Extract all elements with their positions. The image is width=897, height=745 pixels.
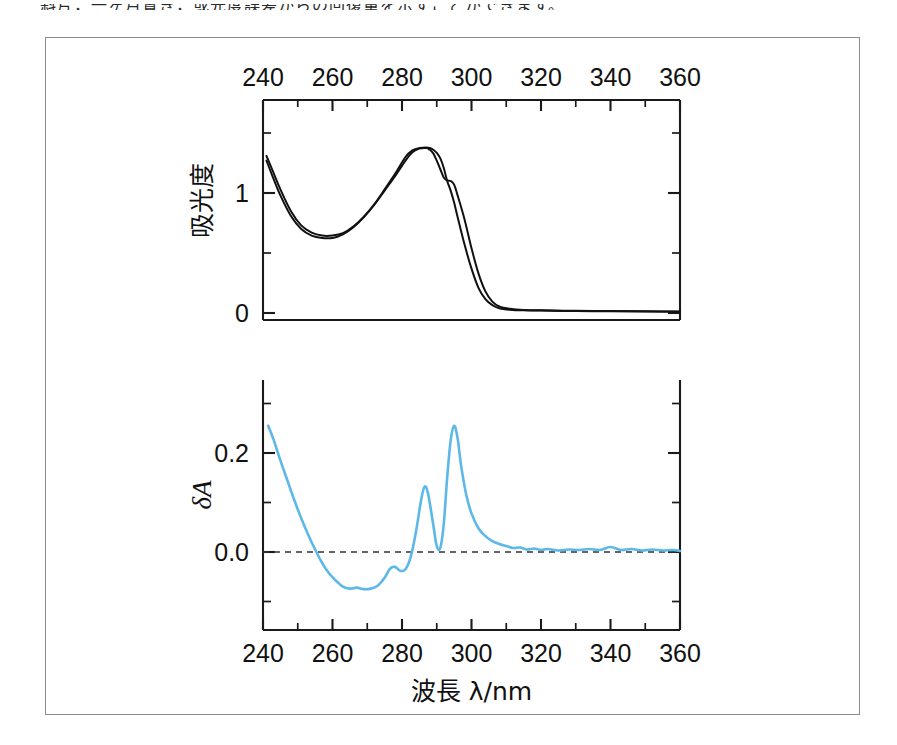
absorbance-chart: 24026028030032034036001吸光度 — [188, 63, 701, 327]
top-chart-xtick-label: 340 — [590, 63, 632, 91]
bottom-chart-ytick-label: 0.0 — [214, 538, 249, 566]
top-chart-xtick-label: 300 — [451, 63, 493, 91]
spectrum-curve-2 — [266, 147, 680, 311]
bottom-chart-xtick-label: 240 — [242, 639, 284, 667]
spectrum-curve-1 — [266, 148, 680, 312]
top-chart-xtick-label: 360 — [659, 63, 701, 91]
top-chart-ytick-label: 1 — [235, 179, 249, 207]
bottom-chart-xtick-label: 320 — [520, 639, 562, 667]
bottom-chart-x-axis-title: 波長 λ/nm — [411, 677, 532, 706]
bottom-chart-xtick-label: 300 — [451, 639, 493, 667]
top-chart-xtick-label: 280 — [381, 63, 423, 91]
bottom-chart-ytick-label: 0.2 — [214, 439, 249, 467]
top-chart-xtick-label: 320 — [520, 63, 562, 91]
bottom-chart-xtick-label: 280 — [381, 639, 423, 667]
figure-plot-area: 24026028030032034036001吸光度 2402602803003… — [0, 0, 897, 745]
delta-A-curve — [268, 426, 680, 589]
bottom-chart-y-axis-title: δA — [187, 480, 217, 510]
bottom-chart-xtick-label: 340 — [590, 639, 632, 667]
top-chart-y-axis-title: 吸光度 — [188, 163, 217, 238]
difference-chart: 2402602803003203403600.00.2δA波長 λ/nm — [187, 380, 701, 706]
top-chart-xtick-label: 260 — [312, 63, 354, 91]
top-chart-ytick-label: 0 — [235, 299, 249, 327]
top-chart-xtick-label: 240 — [242, 63, 284, 91]
bottom-chart-xtick-label: 260 — [312, 639, 354, 667]
bottom-chart-xtick-label: 360 — [659, 639, 701, 667]
